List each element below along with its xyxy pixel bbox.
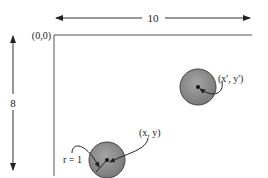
circle-b-center-label: (x', y')	[218, 73, 243, 85]
width-label: 10	[148, 12, 160, 24]
diagram-canvas: 10 8 (0,0) (x', y') (x, y) r = 1	[0, 0, 268, 178]
height-label: 8	[10, 97, 16, 109]
circle-a	[72, 138, 148, 178]
coordinate-frame	[54, 35, 252, 176]
circle-a-center-label: (x, y)	[139, 127, 161, 139]
center-point-b	[196, 85, 200, 89]
origin-label: (0,0)	[32, 30, 51, 42]
radius-label: r = 1	[63, 154, 82, 165]
circle-b	[180, 69, 222, 105]
